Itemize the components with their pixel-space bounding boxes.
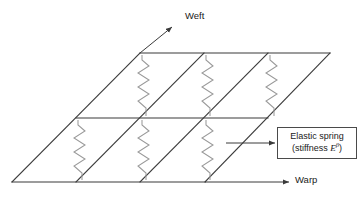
elastic-spring-bottom-1: [74, 120, 85, 180]
elastic-spring-callout: Elastic spring (stiffness Eβ): [277, 127, 357, 159]
elastic-spring-top-3: [266, 55, 277, 116]
callout-stiffness-suffix: ): [339, 143, 342, 153]
callout-line-2: (stiffness Eβ): [281, 143, 353, 155]
weft-arrow: [140, 27, 172, 53]
elastic-spring-top-2: [202, 55, 213, 116]
figure-root: Weft Warp Elastic spring (stiffness Eβ): [0, 0, 363, 198]
lattice-horizontal-lines: [12, 53, 330, 182]
elastic-spring-bottom-3: [202, 120, 213, 180]
elastic-spring-top-1: [138, 55, 149, 116]
callout-stiffness-prefix: (stiffness: [292, 143, 330, 153]
lattice-diagram: [0, 0, 363, 198]
warp-label: Warp: [295, 174, 317, 186]
weft-label: Weft: [185, 10, 204, 22]
elastic-spring-bottom-2: [138, 120, 149, 180]
callout-line-1: Elastic spring: [281, 131, 353, 143]
